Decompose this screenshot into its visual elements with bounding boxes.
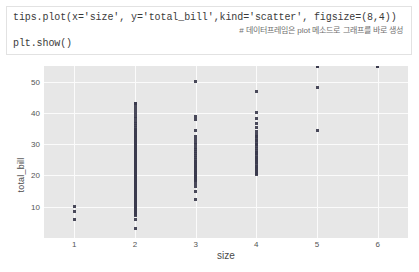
scatter-point: [255, 130, 258, 133]
scatter-point: [134, 189, 137, 192]
y-tick-label: 50: [6, 78, 40, 87]
scatter-point: [255, 135, 258, 138]
scatter-point: [255, 151, 258, 154]
gridline-horizontal: [44, 175, 408, 176]
scatter-point: [194, 138, 197, 141]
scatter-point: [255, 126, 258, 129]
gridline-horizontal: [44, 144, 408, 145]
scatter-figure: total_bill size 1020304050 123456: [0, 58, 419, 272]
scatter-point: [255, 90, 258, 93]
scatter-point: [194, 198, 197, 201]
scatter-point: [73, 205, 76, 208]
gridline-vertical: [317, 66, 318, 238]
scatter-point: [73, 218, 76, 221]
gridline-horizontal: [44, 207, 408, 208]
scatter-point: [134, 182, 137, 185]
scatter-point: [134, 204, 137, 207]
gridline-horizontal: [44, 82, 408, 83]
x-tick-label: 6: [368, 240, 388, 249]
scatter-point: [376, 66, 379, 68]
scatter-point: [316, 86, 319, 89]
gridline-horizontal: [44, 113, 408, 114]
y-tick-label: 30: [6, 140, 40, 149]
scatter-point: [194, 115, 197, 118]
scatter-point: [134, 218, 137, 221]
scatter-point: [134, 109, 137, 112]
x-tick-label: 5: [307, 240, 327, 249]
x-axis-ticks: 123456: [44, 240, 408, 252]
code-cell[interactable]: tips.plot(x='size', y='total_bill',kind=…: [6, 6, 412, 55]
x-tick-label: 1: [64, 240, 84, 249]
scatter-point: [134, 106, 137, 109]
y-tick-label: 10: [6, 203, 40, 212]
scatter-point: [134, 199, 137, 202]
y-tick-label: 20: [6, 171, 40, 180]
y-tick-label: 40: [6, 109, 40, 118]
x-tick-label: 4: [246, 240, 266, 249]
gridline-vertical: [378, 66, 379, 238]
scatter-point: [73, 210, 76, 213]
code-comment-row: # 데이터프레임은 plot 메소드로 그래프를 바로 생성: [13, 25, 405, 37]
x-tick-label: 2: [125, 240, 145, 249]
scatter-point: [316, 129, 319, 132]
scatter-point: [134, 115, 137, 118]
scatter-point: [134, 102, 137, 105]
scatter-point: [194, 135, 197, 138]
scatter-point: [194, 80, 197, 83]
scatter-point: [255, 111, 258, 114]
plot-area: [44, 66, 408, 238]
scatter-point: [255, 122, 258, 125]
scatter-point: [194, 175, 197, 178]
scatter-point: [134, 227, 137, 230]
scatter-point: [255, 117, 258, 120]
scatter-point: [194, 190, 197, 193]
code-line-plot: tips.plot(x='size', y='total_bill',kind=…: [13, 11, 405, 25]
code-comment-korean: # 데이터프레임은 plot 메소드로 그래프를 바로 생성: [239, 24, 403, 35]
x-tick-label: 3: [186, 240, 206, 249]
scatter-point: [134, 112, 137, 115]
code-line-show: plt.show(): [13, 37, 405, 51]
scatter-point: [194, 185, 197, 188]
scatter-point: [194, 141, 197, 144]
scatter-point: [255, 143, 258, 146]
scatter-point: [194, 129, 197, 132]
y-axis-ticks: 1020304050: [0, 66, 40, 238]
scatter-point: [255, 172, 258, 175]
screenshot-root: tips.plot(x='size', y='total_bill',kind=…: [0, 0, 419, 272]
scatter-point: [255, 139, 258, 142]
scatter-point: [316, 66, 319, 68]
